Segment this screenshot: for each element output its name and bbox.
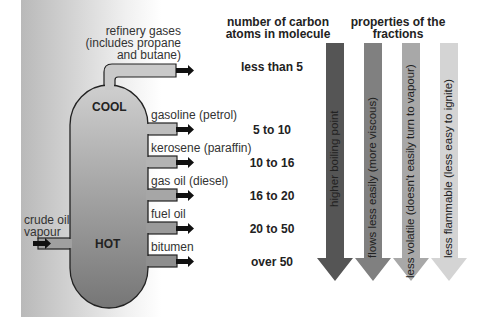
fraction-name-gasoline: gasoline (petrol) <box>151 109 237 122</box>
carbon-header-line2: atoms in molecule <box>220 28 336 41</box>
carbon-count-gas-oil: 16 to 20 <box>232 189 312 203</box>
carbon-count-gasoline: 5 to 10 <box>232 123 312 137</box>
carbon-count-kerosene: 10 to 16 <box>232 156 312 170</box>
fraction-name-bitumen: bitumen <box>151 241 194 254</box>
property-boiling-point: higher boiling point <box>328 110 340 207</box>
property-volatility: less volatile (doesn't easily turn to va… <box>404 64 416 278</box>
carbon-count-refinery-gases: less than 5 <box>232 60 312 74</box>
cool-label: COOL <box>92 100 127 114</box>
carbon-count-fuel-oil: 20 to 50 <box>232 222 312 236</box>
fraction-name-fuel-oil: fuel oil <box>151 208 186 221</box>
properties-header-line2: fractions <box>335 28 461 41</box>
fraction-name-kerosene: kerosene (paraffin) <box>151 142 252 155</box>
property-viscosity: flows less easily (more viscous) <box>366 97 378 258</box>
crude-oil-label-line2: vapour <box>24 226 61 239</box>
fraction-name-refinery-gases-3: and butane) <box>88 49 181 62</box>
carbon-count-bitumen: over 50 <box>232 255 312 269</box>
property-flammability: less flammable (less easy to ignite) <box>442 79 454 258</box>
hot-label: HOT <box>95 237 120 251</box>
fraction-name-gas-oil: gas oil (diesel) <box>151 175 228 188</box>
